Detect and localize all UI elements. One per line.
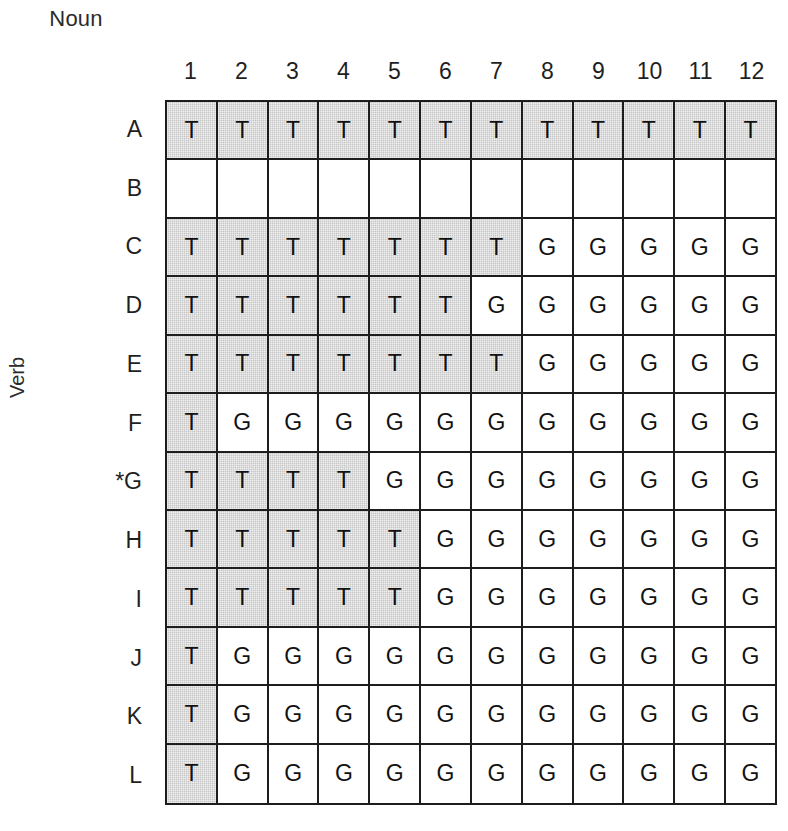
matrix-cell-L-6[interactable]: G	[421, 745, 472, 803]
matrix-cell-L-3[interactable]: G	[269, 745, 320, 803]
matrix-cell-B-7[interactable]	[472, 160, 523, 218]
matrix-cell-F-4[interactable]: G	[319, 394, 370, 452]
matrix-cell-H-6[interactable]: G	[421, 511, 472, 569]
matrix-cell-E-11[interactable]: G	[675, 336, 726, 394]
matrix-cell-I-8[interactable]: G	[523, 569, 574, 627]
matrix-cell-H-7[interactable]: G	[472, 511, 523, 569]
matrix-cell-K-5[interactable]: G	[370, 686, 421, 744]
matrix-cell-J-7[interactable]: G	[472, 628, 523, 686]
matrix-cell-E-6[interactable]: T	[421, 336, 472, 394]
matrix-cell-star-G-7[interactable]: G	[472, 453, 523, 511]
matrix-cell-B-5[interactable]	[370, 160, 421, 218]
matrix-cell-E-1[interactable]: T	[167, 336, 218, 394]
matrix-cell-L-9[interactable]: G	[574, 745, 625, 803]
matrix-cell-A-4[interactable]: T	[319, 102, 370, 160]
matrix-cell-J-11[interactable]: G	[675, 628, 726, 686]
matrix-cell-C-9[interactable]: G	[574, 219, 625, 277]
matrix-cell-F-2[interactable]: G	[218, 394, 269, 452]
matrix-cell-H-3[interactable]: T	[269, 511, 320, 569]
matrix-cell-A-6[interactable]: T	[421, 102, 472, 160]
matrix-cell-F-1[interactable]: T	[167, 394, 218, 452]
matrix-cell-J-12[interactable]: G	[726, 628, 775, 686]
matrix-cell-F-8[interactable]: G	[523, 394, 574, 452]
matrix-cell-C-7[interactable]: T	[472, 219, 523, 277]
matrix-cell-K-6[interactable]: G	[421, 686, 472, 744]
matrix-cell-I-10[interactable]: G	[624, 569, 675, 627]
matrix-cell-star-G-10[interactable]: G	[624, 453, 675, 511]
matrix-cell-I-1[interactable]: T	[167, 569, 218, 627]
matrix-cell-L-7[interactable]: G	[472, 745, 523, 803]
matrix-cell-C-6[interactable]: T	[421, 219, 472, 277]
matrix-cell-H-8[interactable]: G	[523, 511, 574, 569]
matrix-cell-I-2[interactable]: T	[218, 569, 269, 627]
matrix-cell-L-4[interactable]: G	[319, 745, 370, 803]
matrix-cell-A-8[interactable]: T	[523, 102, 574, 160]
matrix-cell-H-1[interactable]: T	[167, 511, 218, 569]
matrix-cell-L-11[interactable]: G	[675, 745, 726, 803]
matrix-cell-star-G-4[interactable]: T	[319, 453, 370, 511]
matrix-cell-D-3[interactable]: T	[269, 277, 320, 335]
matrix-cell-B-11[interactable]	[675, 160, 726, 218]
matrix-cell-A-5[interactable]: T	[370, 102, 421, 160]
matrix-cell-H-12[interactable]: G	[726, 511, 775, 569]
matrix-cell-H-5[interactable]: T	[370, 511, 421, 569]
matrix-cell-C-3[interactable]: T	[269, 219, 320, 277]
matrix-cell-K-9[interactable]: G	[574, 686, 625, 744]
matrix-cell-D-11[interactable]: G	[675, 277, 726, 335]
matrix-cell-J-4[interactable]: G	[319, 628, 370, 686]
matrix-cell-I-3[interactable]: T	[269, 569, 320, 627]
matrix-cell-C-5[interactable]: T	[370, 219, 421, 277]
matrix-cell-E-9[interactable]: G	[574, 336, 625, 394]
matrix-cell-K-2[interactable]: G	[218, 686, 269, 744]
matrix-cell-D-12[interactable]: G	[726, 277, 775, 335]
matrix-cell-star-G-5[interactable]: G	[370, 453, 421, 511]
matrix-cell-L-1[interactable]: T	[167, 745, 218, 803]
matrix-cell-B-9[interactable]	[574, 160, 625, 218]
matrix-cell-I-6[interactable]: G	[421, 569, 472, 627]
matrix-cell-C-2[interactable]: T	[218, 219, 269, 277]
matrix-cell-K-7[interactable]: G	[472, 686, 523, 744]
matrix-cell-E-12[interactable]: G	[726, 336, 775, 394]
matrix-cell-star-G-12[interactable]: G	[726, 453, 775, 511]
matrix-cell-L-10[interactable]: G	[624, 745, 675, 803]
matrix-cell-J-9[interactable]: G	[574, 628, 625, 686]
matrix-cell-A-9[interactable]: T	[574, 102, 625, 160]
matrix-cell-C-12[interactable]: G	[726, 219, 775, 277]
matrix-cell-F-6[interactable]: G	[421, 394, 472, 452]
matrix-cell-A-7[interactable]: T	[472, 102, 523, 160]
matrix-cell-E-3[interactable]: T	[269, 336, 320, 394]
matrix-cell-A-3[interactable]: T	[269, 102, 320, 160]
matrix-cell-K-12[interactable]: G	[726, 686, 775, 744]
matrix-cell-D-4[interactable]: T	[319, 277, 370, 335]
matrix-cell-J-6[interactable]: G	[421, 628, 472, 686]
matrix-cell-L-2[interactable]: G	[218, 745, 269, 803]
matrix-cell-C-11[interactable]: G	[675, 219, 726, 277]
matrix-cell-I-9[interactable]: G	[574, 569, 625, 627]
matrix-cell-K-1[interactable]: T	[167, 686, 218, 744]
matrix-cell-J-5[interactable]: G	[370, 628, 421, 686]
matrix-cell-H-2[interactable]: T	[218, 511, 269, 569]
matrix-cell-B-3[interactable]	[269, 160, 320, 218]
matrix-cell-L-5[interactable]: G	[370, 745, 421, 803]
matrix-cell-star-G-3[interactable]: T	[269, 453, 320, 511]
matrix-cell-K-4[interactable]: G	[319, 686, 370, 744]
matrix-cell-I-11[interactable]: G	[675, 569, 726, 627]
matrix-cell-K-11[interactable]: G	[675, 686, 726, 744]
matrix-cell-B-12[interactable]	[726, 160, 775, 218]
matrix-cell-C-4[interactable]: T	[319, 219, 370, 277]
matrix-cell-L-8[interactable]: G	[523, 745, 574, 803]
matrix-cell-A-1[interactable]: T	[167, 102, 218, 160]
matrix-cell-B-10[interactable]	[624, 160, 675, 218]
matrix-cell-star-G-11[interactable]: G	[675, 453, 726, 511]
matrix-cell-D-5[interactable]: T	[370, 277, 421, 335]
matrix-cell-A-2[interactable]: T	[218, 102, 269, 160]
matrix-cell-F-5[interactable]: G	[370, 394, 421, 452]
matrix-cell-F-7[interactable]: G	[472, 394, 523, 452]
matrix-cell-star-G-8[interactable]: G	[523, 453, 574, 511]
matrix-cell-A-11[interactable]: T	[675, 102, 726, 160]
matrix-cell-star-G-1[interactable]: T	[167, 453, 218, 511]
matrix-cell-I-5[interactable]: T	[370, 569, 421, 627]
matrix-cell-B-6[interactable]	[421, 160, 472, 218]
matrix-cell-F-12[interactable]: G	[726, 394, 775, 452]
matrix-cell-D-10[interactable]: G	[624, 277, 675, 335]
